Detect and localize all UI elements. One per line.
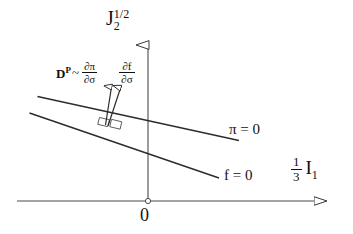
diagram-canvas bbox=[0, 0, 353, 234]
origin-dot-icon bbox=[145, 198, 150, 203]
gradient-annotation: DP ~ ∂π ∂σ ∂f ∂σ bbox=[56, 60, 135, 86]
potential-gradient-numerator: ∂π bbox=[82, 60, 97, 72]
x-axis-fraction-numerator: 1 bbox=[291, 155, 302, 169]
potential-gradient-fraction: ∂π ∂σ bbox=[82, 60, 97, 86]
y-axis-label-subscript: 2 bbox=[114, 19, 120, 33]
potential-surface-label: π = 0 bbox=[229, 122, 260, 137]
origin-label: 0 bbox=[140, 206, 149, 224]
potential-gradient-denominator: ∂σ bbox=[82, 72, 97, 85]
plastic-strain-superscript: P bbox=[65, 65, 71, 75]
x-axis-variable-subscript: 1 bbox=[312, 168, 318, 182]
right-angle-marker-right-icon bbox=[110, 119, 122, 129]
x-axis-label: 1 3 I1 bbox=[291, 155, 318, 183]
plastic-strain-symbol: DP bbox=[56, 66, 71, 80]
y-axis-label-base: J bbox=[106, 7, 114, 29]
yield-surface-label: f = 0 bbox=[224, 168, 252, 183]
plastic-strain-base: D bbox=[56, 66, 65, 81]
y-axis-label-superscript: 1/2 bbox=[114, 7, 129, 21]
yield-gradient-numerator: ∂f bbox=[120, 60, 133, 72]
potential-surface-curve bbox=[38, 97, 240, 141]
y-axis-label: J21/2 bbox=[106, 8, 129, 32]
yield-gradient-denominator: ∂σ bbox=[119, 72, 134, 85]
stress-space-yield-surface-diagram: J21/2 1 3 I1 DP ~ ∂π ∂σ ∂f ∂σ π = 0 f = … bbox=[0, 0, 353, 234]
x-axis-label-variable: I1 bbox=[306, 158, 318, 181]
x-axis-label-fraction: 1 3 bbox=[291, 155, 302, 183]
proportional-symbol: ~ bbox=[72, 66, 79, 79]
x-axis-fraction-denominator: 3 bbox=[291, 169, 302, 184]
yield-surface-curve bbox=[30, 113, 220, 178]
yield-gradient-fraction: ∂f ∂σ bbox=[119, 60, 134, 86]
